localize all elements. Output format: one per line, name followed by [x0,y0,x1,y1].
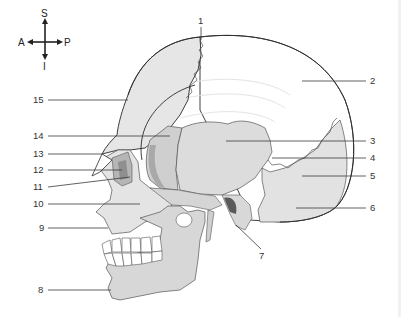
occipital-bone [258,120,347,222]
label-6: 6 [370,202,375,213]
temporal-bone [176,121,272,195]
label-11: 11 [33,181,43,192]
label-14: 14 [33,130,44,141]
mandibular-notch [176,213,192,227]
label-15: 15 [33,94,44,105]
label-7: 7 [259,250,264,261]
label-4: 4 [370,152,375,163]
styloid-process [206,210,214,242]
skull-diagram: S I A P [0,0,401,317]
label-9: 9 [39,222,44,233]
label-5: 5 [370,170,375,181]
label-1: 1 [198,15,203,26]
label-10: 10 [33,198,44,209]
compass-posterior: P [64,37,71,48]
label-13: 13 [33,148,44,159]
leader-7 [236,225,261,249]
compass-inferior: I [43,61,46,72]
label-2: 2 [370,75,375,86]
arrow-right-icon [57,39,63,45]
arrow-down-icon [42,54,48,60]
label-8: 8 [38,284,43,295]
label-3: 3 [370,135,375,146]
teeth [102,236,162,266]
orientation-compass: S I A P [18,8,71,72]
label-12: 12 [33,164,44,175]
arrow-left-icon [27,39,33,45]
compass-superior: S [41,8,48,19]
compass-anterior: A [18,37,25,48]
